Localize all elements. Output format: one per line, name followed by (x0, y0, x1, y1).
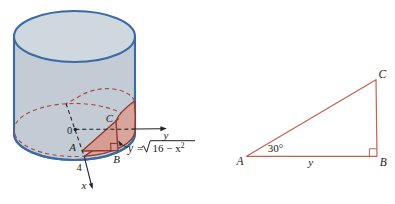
label-a-right: A (235, 155, 244, 167)
radicand-text: 16 − x (153, 142, 182, 154)
figure-canvas: 0 C A B 4 x y y = 16 − x2 30° A B C y (0, 0, 395, 204)
equation-equals: = (137, 142, 143, 154)
wedge-figure-svg: 0 C A B 4 x y y = 16 − x2 30° A B C y (0, 0, 395, 204)
label-angle-30: 30° (268, 142, 283, 154)
triangle-outline (247, 80, 378, 157)
origin-dot (74, 128, 77, 131)
equation-label: y = 16 − x2 (118, 141, 195, 156)
label-a: A (68, 141, 76, 153)
label-b-right: B (380, 156, 387, 168)
equation-lhs: y (127, 142, 134, 155)
label-c-right: C (378, 68, 386, 80)
label-base-y: y (307, 156, 313, 168)
radicand-exponent: 2 (181, 141, 185, 150)
x-axis-arrowhead (89, 183, 93, 190)
label-b: B (113, 153, 120, 165)
equation-radicand: 16 − x2 (153, 141, 185, 155)
wedge-silhouette-edge (135, 101, 136, 130)
label-x-axis: x (81, 179, 87, 191)
cylinder-top-ellipse (14, 11, 135, 62)
label-y-axis: y (163, 129, 169, 141)
right-angle-marker-right (369, 149, 377, 157)
label-c: C (106, 112, 114, 124)
right-triangle-figure: 30° A B C y (235, 68, 386, 168)
label-origin: 0 (67, 125, 72, 136)
label-radius-4: 4 (77, 162, 83, 173)
